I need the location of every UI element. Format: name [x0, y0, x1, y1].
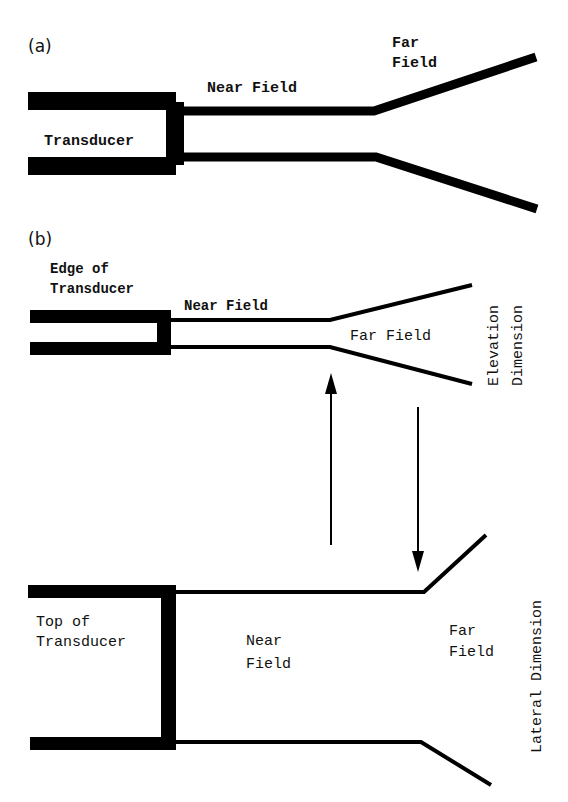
- panel-b-label: (b): [28, 229, 52, 249]
- panel-a: (a) Transducer Near Field Far Field: [28, 35, 537, 209]
- transducer-beam-diagram: (a) Transducer Near Field Far Field (b) …: [0, 0, 568, 802]
- bottom-wall: [30, 737, 176, 750]
- transducer-top-wall: [28, 92, 176, 110]
- edge-label-line2: Transducer: [50, 281, 134, 297]
- top-wall: [28, 585, 176, 598]
- top-label-line2: Transducer: [36, 634, 126, 651]
- arrow-down-icon: [412, 551, 424, 572]
- elevation-dimension-line2: Dimension: [510, 305, 527, 386]
- elevation-near-field-label: Near Field: [184, 298, 268, 314]
- lateral-far-label-line2: Field: [449, 644, 494, 661]
- elevation-far-field-label: Far Field: [350, 328, 431, 345]
- panel-a-label: (a): [28, 36, 52, 56]
- edge-face: [157, 310, 171, 355]
- panel-b: (b) Edge of Transducer Near Field Far Fi…: [28, 229, 546, 785]
- lateral-near-label-line1: Near: [246, 633, 282, 650]
- lateral-lower-edge: [176, 742, 491, 785]
- edge-top-wall: [30, 310, 171, 323]
- transducer-label: Transducer: [44, 133, 134, 150]
- far-field-label-line2: Field: [392, 55, 437, 72]
- edge-bottom-wall: [30, 342, 171, 355]
- elevation-view: Edge of Transducer Near Field Far Field …: [30, 261, 527, 386]
- lateral-view: Top of Transducer Near Field Far Field L…: [28, 535, 546, 785]
- top-label-line1: Top of: [36, 614, 90, 631]
- lateral-far-label-line1: Far: [449, 623, 476, 640]
- lateral-dimension-label: Lateral Dimension: [529, 600, 546, 753]
- rotation-arrows: [325, 373, 424, 572]
- transducer-face-lip: [174, 102, 184, 165]
- arrow-up-icon: [325, 373, 337, 394]
- far-field-label-line1: Far: [392, 35, 419, 52]
- beam-lower-edge: [184, 157, 537, 209]
- transducer-bottom-wall: [28, 157, 176, 175]
- near-field-label: Near Field: [207, 80, 297, 97]
- transducer-top-face: [161, 585, 176, 750]
- edge-label-line1: Edge of: [50, 261, 109, 277]
- elevation-lower-edge: [171, 347, 472, 384]
- lateral-near-label-line2: Field: [246, 656, 291, 673]
- elevation-dimension-line1: Elevation: [486, 305, 503, 386]
